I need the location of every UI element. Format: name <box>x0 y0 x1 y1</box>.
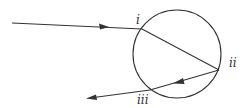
refracted-ray <box>142 29 219 70</box>
droplet-circle <box>133 10 221 98</box>
outgoing-arrowhead-icon <box>86 95 97 101</box>
reflected-ray <box>150 70 219 90</box>
label-point-ii: ii <box>229 56 237 70</box>
reflected-arrowhead-icon <box>173 78 185 84</box>
droplet-ray-diagram: i ii iii <box>0 0 250 108</box>
incoming-ray <box>12 23 142 29</box>
label-point-i: i <box>136 13 140 27</box>
incoming-arrowhead-icon <box>99 24 109 30</box>
label-point-iii: iii <box>137 93 149 107</box>
